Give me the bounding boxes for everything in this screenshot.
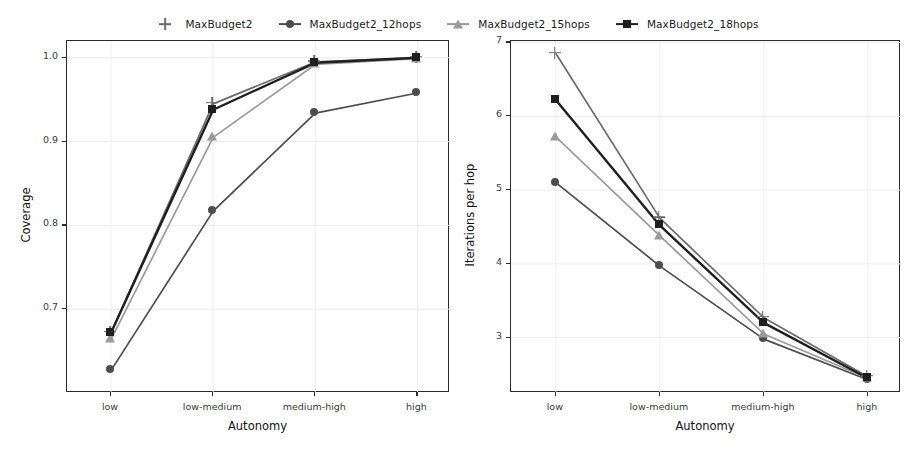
x-tick-label: low-medium	[609, 401, 709, 412]
x-tick-mark	[659, 392, 660, 396]
legend-marker	[279, 16, 301, 32]
legend-entry[interactable]: MaxBudget2_18hops	[616, 16, 759, 32]
y-tick-label: 7	[468, 34, 502, 45]
y-axis-title-coverage: Coverage	[19, 39, 33, 391]
y-tick-label: 1.0	[24, 50, 58, 61]
legend-entry[interactable]: MaxBudget2	[154, 16, 252, 32]
series-line	[556, 137, 868, 378]
x-tick-label: high	[817, 401, 913, 412]
series-line	[556, 100, 868, 378]
legend-label: MaxBudget2_18hops	[647, 18, 759, 30]
y-tick-label: 0.7	[24, 301, 58, 312]
y-tick-mark	[506, 115, 510, 116]
x-tick-label: high	[366, 401, 466, 412]
plot-area-iterations	[510, 40, 900, 392]
y-tick-label: 4	[468, 256, 502, 267]
y-tick-mark	[506, 41, 510, 42]
y-tick-mark	[62, 224, 66, 225]
figure-canvas: MaxBudget2MaxBudget2_12hopsMaxBudget2_15…	[0, 0, 913, 463]
chart-legend: MaxBudget2MaxBudget2_12hopsMaxBudget2_15…	[0, 12, 913, 36]
y-tick-label: 6	[468, 108, 502, 119]
x-tick-mark	[212, 392, 213, 396]
legend-marker	[154, 16, 176, 32]
y-tick-mark	[62, 141, 66, 142]
plot-lines-coverage	[67, 41, 450, 393]
x-tick-label: low	[505, 401, 605, 412]
plot-area-coverage	[66, 40, 449, 392]
series-line	[556, 54, 868, 377]
chart-panel-iterations: Iterations per hop Autonomy 34567lowlow-…	[458, 38, 908, 450]
plot-lines-iterations	[511, 41, 901, 393]
chart-panel-coverage: Coverage Autonomy 0.70.80.91.0lowlow-med…	[6, 38, 456, 450]
x-tick-label: low	[60, 401, 160, 412]
x-tick-mark	[763, 392, 764, 396]
y-tick-mark	[506, 263, 510, 264]
y-tick-label: 3	[468, 330, 502, 341]
series-line	[111, 58, 417, 333]
y-tick-label: 0.9	[24, 134, 58, 145]
x-tick-mark	[314, 392, 315, 396]
legend-label: MaxBudget2	[185, 18, 252, 30]
legend-entry[interactable]: MaxBudget2_15hops	[447, 16, 590, 32]
y-tick-mark	[506, 189, 510, 190]
x-tick-label: medium-high	[264, 401, 364, 412]
x-tick-mark	[555, 392, 556, 396]
legend-entry[interactable]: MaxBudget2_12hops	[279, 16, 422, 32]
y-tick-label: 5	[468, 182, 502, 193]
x-axis-title-iterations: Autonomy	[510, 419, 900, 433]
legend-label: MaxBudget2_15hops	[478, 18, 590, 30]
x-tick-label: medium-high	[713, 401, 813, 412]
y-tick-label: 0.8	[24, 217, 58, 228]
x-tick-mark	[867, 392, 868, 396]
y-tick-mark	[62, 308, 66, 309]
legend-marker	[616, 16, 638, 32]
y-tick-mark	[506, 337, 510, 338]
x-tick-mark	[110, 392, 111, 396]
x-tick-label: low-medium	[162, 401, 262, 412]
legend-label: MaxBudget2_12hops	[310, 18, 422, 30]
y-tick-mark	[62, 57, 66, 58]
legend-marker	[447, 16, 469, 32]
series-line	[111, 58, 417, 333]
x-tick-mark	[416, 392, 417, 396]
x-axis-title-coverage: Autonomy	[66, 419, 449, 433]
